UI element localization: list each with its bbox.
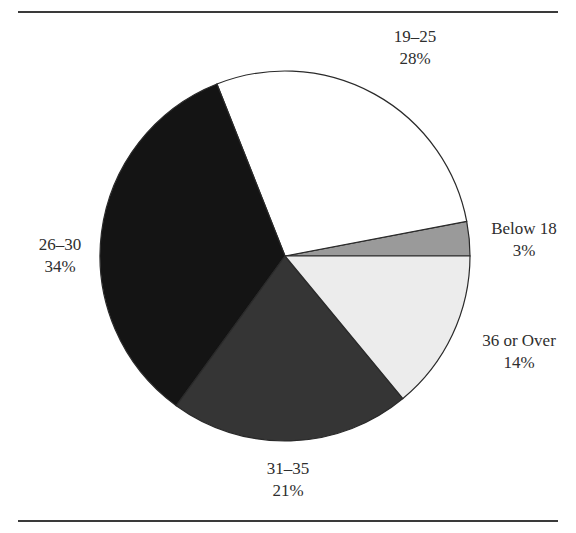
label-19-25-name: 19–25 [370, 26, 460, 48]
label-19-25: 19–25 28% [370, 26, 460, 70]
label-below-18: Below 18 3% [474, 218, 574, 262]
label-26-30-pct: 34% [18, 256, 102, 278]
pie-slices [100, 71, 470, 441]
label-below-18-name: Below 18 [474, 218, 574, 240]
bottom-rule [18, 520, 558, 522]
label-19-25-pct: 28% [370, 48, 460, 70]
label-26-30-name: 26–30 [18, 234, 102, 256]
label-31-35-name: 31–35 [238, 458, 338, 480]
label-36-or-over-name: 36 or Over [462, 330, 576, 352]
label-below-18-pct: 3% [474, 240, 574, 262]
label-36-or-over: 36 or Over 14% [462, 330, 576, 374]
label-31-35-pct: 21% [238, 480, 338, 502]
label-26-30: 26–30 34% [18, 234, 102, 278]
label-31-35: 31–35 21% [238, 458, 338, 502]
label-36-or-over-pct: 14% [462, 352, 576, 374]
